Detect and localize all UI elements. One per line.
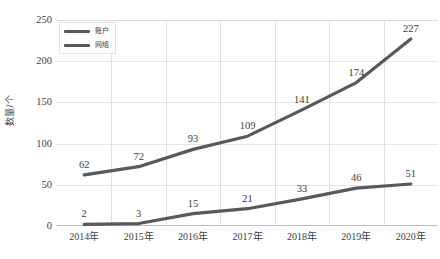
data-label: 174 — [348, 67, 364, 78]
data-label: 21 — [242, 193, 253, 204]
x-tick-label: 2019年 — [341, 228, 371, 243]
y-tick-label: 100 — [24, 139, 52, 149]
y-axis-title: 数量/个 — [3, 81, 16, 141]
x-tick-label: 2018年 — [287, 228, 317, 243]
x-tick-label: 2014年 — [69, 228, 99, 243]
legend-color-swatch — [64, 44, 90, 47]
data-label: 2 — [82, 208, 87, 219]
legend-item[interactable]: 账户 — [64, 27, 109, 35]
data-label: 3 — [136, 208, 141, 219]
data-label: 62 — [79, 159, 90, 170]
data-label: 93 — [188, 133, 199, 144]
x-tick-label: 2016年 — [178, 228, 208, 243]
y-tick-label: 50 — [24, 180, 52, 190]
y-tick-label: 200 — [24, 56, 52, 66]
x-axis-ticks: 2014年2015年2016年2017年2018年2019年2020年 — [57, 228, 438, 246]
y-axis-ticks: 050100150200250 — [22, 0, 52, 259]
y-tick-label: 250 — [24, 15, 52, 25]
data-label: 227 — [403, 23, 419, 34]
legend-color-swatch — [64, 30, 90, 33]
data-label: 51 — [406, 168, 417, 179]
y-tick-label: 150 — [24, 97, 52, 107]
legend-label: 网络 — [95, 41, 109, 49]
legend-label: 账户 — [95, 27, 109, 35]
data-label: 141 — [294, 94, 310, 105]
y-tick-label: 0 — [24, 221, 52, 231]
line-chart: 数量/个 050100150200250 6272931091411742272… — [0, 0, 440, 259]
x-tick-label: 2017年 — [233, 228, 263, 243]
data-label: 46 — [351, 172, 362, 183]
data-label: 72 — [133, 151, 144, 162]
x-tick-label: 2020年 — [396, 228, 426, 243]
x-tick-label: 2015年 — [124, 228, 154, 243]
data-label: 109 — [240, 120, 256, 131]
data-label: 33 — [297, 183, 308, 194]
chart-legend: 账户网络 — [59, 22, 116, 54]
series-line-1 — [84, 184, 411, 224]
legend-item[interactable]: 网络 — [64, 41, 109, 49]
data-label: 15 — [188, 198, 199, 209]
